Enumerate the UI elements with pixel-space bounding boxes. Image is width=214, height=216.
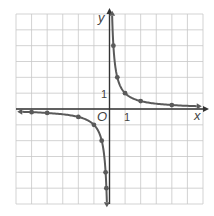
curve-arrow-icon xyxy=(104,202,110,207)
x-axis-label: x xyxy=(193,108,201,123)
data-point xyxy=(45,111,50,116)
data-point xyxy=(111,43,116,48)
data-point xyxy=(138,99,143,104)
x-tick-label-1: 1 xyxy=(124,111,130,123)
data-point xyxy=(92,122,97,127)
data-point xyxy=(104,186,109,191)
data-point xyxy=(29,110,34,115)
data-point xyxy=(76,115,81,120)
x-axis-arrow-icon xyxy=(203,106,209,112)
curve-arrow-icon xyxy=(17,109,22,115)
y-tick-label-1: 1 xyxy=(101,88,107,100)
hyperbola-graph: y x O 1 1 xyxy=(0,0,214,216)
data-point xyxy=(169,103,174,108)
data-point xyxy=(115,75,120,80)
y-axis-label: y xyxy=(97,10,106,25)
origin-label: O xyxy=(97,109,107,124)
data-point xyxy=(123,91,128,96)
data-point xyxy=(99,138,104,143)
data-point xyxy=(103,170,108,175)
